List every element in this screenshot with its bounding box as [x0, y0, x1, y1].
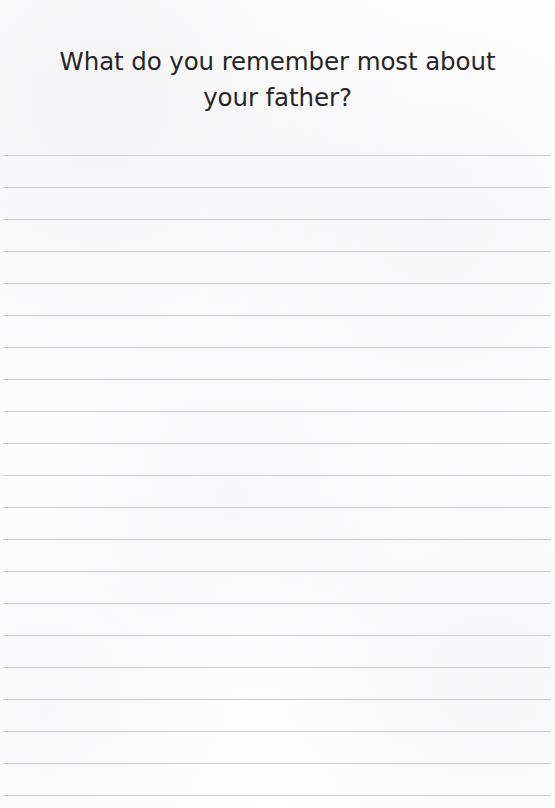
writing-line[interactable] [3, 571, 551, 572]
writing-line[interactable] [3, 603, 551, 604]
writing-line[interactable] [3, 283, 551, 284]
writing-line[interactable] [3, 731, 551, 732]
writing-line[interactable] [3, 155, 551, 156]
writing-line[interactable] [3, 507, 551, 508]
writing-line[interactable] [3, 475, 551, 476]
writing-line[interactable] [3, 347, 551, 348]
writing-lines-area[interactable] [0, 0, 555, 808]
writing-line[interactable] [3, 539, 551, 540]
writing-line[interactable] [3, 187, 551, 188]
writing-line[interactable] [3, 763, 551, 764]
writing-line[interactable] [3, 699, 551, 700]
writing-line[interactable] [3, 411, 551, 412]
writing-line[interactable] [3, 635, 551, 636]
writing-line[interactable] [3, 667, 551, 668]
writing-line[interactable] [3, 219, 551, 220]
writing-line[interactable] [3, 379, 551, 380]
writing-line[interactable] [3, 443, 551, 444]
writing-line[interactable] [3, 251, 551, 252]
writing-line[interactable] [3, 315, 551, 316]
journal-page: What do you remember most about your fat… [0, 0, 555, 808]
writing-line[interactable] [3, 795, 551, 796]
